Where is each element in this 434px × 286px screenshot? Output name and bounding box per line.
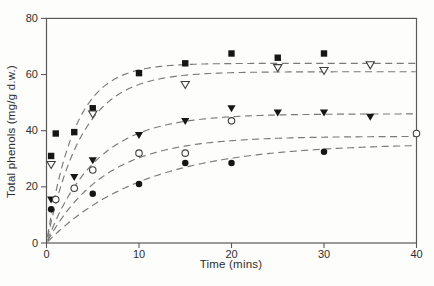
fit-curve-open-circle-series: [48, 136, 416, 240]
y-tick-label: 0: [32, 237, 38, 249]
y-tick-label: 40: [26, 124, 38, 136]
y-tick-label: 80: [26, 12, 38, 24]
data-point-open-circle-series: [90, 167, 97, 174]
data-point-filled-triangle-down-series: [135, 132, 143, 139]
data-point-filled-triangle-down-series: [366, 114, 374, 121]
x-tick-label: 0: [43, 248, 49, 260]
data-point-open-triangle-down-series: [47, 161, 55, 168]
fit-curve-open-triangle-down-series: [48, 72, 416, 238]
data-point-open-circle-series: [228, 118, 235, 125]
data-point-filled-square-series: [71, 129, 77, 135]
data-point-filled-square-series: [53, 130, 59, 136]
x-tick-label: 10: [133, 248, 145, 260]
data-point-filled-square-series: [321, 50, 327, 56]
data-point-open-circle-series: [53, 196, 60, 203]
y-tick-label: 20: [26, 180, 38, 192]
data-point-filled-square-series: [182, 60, 188, 66]
x-tick-label: 30: [318, 248, 330, 260]
x-axis-label: Time (mins): [166, 258, 296, 270]
data-point-filled-triangle-down-series: [227, 105, 235, 112]
data-point-filled-circle-series: [48, 206, 55, 213]
data-point-filled-square-series: [48, 153, 54, 159]
data-point-filled-triangle-down-series: [320, 110, 328, 117]
data-point-open-circle-series: [136, 150, 143, 157]
data-point-open-triangle-down-series: [320, 67, 328, 74]
y-axis-label: Total phenols (mg/g d.w.): [5, 18, 20, 246]
data-point-filled-circle-series: [90, 191, 97, 198]
data-point-open-circle-series: [71, 185, 78, 192]
data-point-filled-circle-series: [228, 160, 235, 167]
fit-curve-filled-square-series: [48, 63, 416, 236]
data-point-filled-square-series: [136, 70, 142, 76]
data-point-filled-triangle-down-series: [70, 174, 78, 181]
x-tick-label: 40: [410, 248, 422, 260]
data-point-open-triangle-down-series: [181, 81, 189, 88]
data-point-filled-square-series: [228, 50, 234, 56]
phenol-extraction-figure: 010203040020406080 Time (mins) Total phe…: [0, 0, 434, 286]
data-point-open-triangle-down-series: [366, 62, 374, 69]
data-point-open-circle-series: [413, 130, 420, 137]
y-tick-label: 60: [26, 68, 38, 80]
scatter-plot: 010203040020406080: [0, 0, 434, 286]
data-point-open-circle-series: [182, 150, 189, 157]
data-point-filled-square-series: [275, 55, 281, 61]
data-point-filled-circle-series: [321, 149, 328, 156]
data-point-open-triangle-down-series: [274, 65, 282, 72]
data-point-filled-circle-series: [136, 181, 143, 188]
data-point-filled-circle-series: [182, 160, 189, 167]
